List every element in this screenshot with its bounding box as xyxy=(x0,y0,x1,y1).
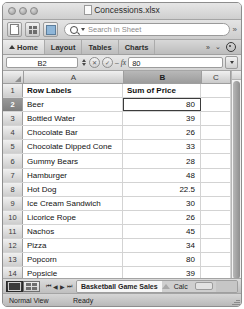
select-all-corner[interactable] xyxy=(3,71,24,83)
cell-c10[interactable] xyxy=(201,211,231,224)
function-icon[interactable]: fx xyxy=(121,58,126,67)
cell-c1[interactable] xyxy=(201,84,231,97)
table-row[interactable]: 6 Gummy Bears 28 xyxy=(3,154,231,168)
cell-b5[interactable]: 33 xyxy=(123,140,201,153)
cell-a9[interactable]: Ice Cream Sandwich xyxy=(23,197,123,210)
row-header[interactable]: 12 xyxy=(3,239,23,252)
search-input[interactable]: Search in Sheet xyxy=(64,23,230,36)
column-header-b[interactable]: B xyxy=(124,71,202,83)
table-row[interactable]: 14 Popsicle 39 xyxy=(3,267,231,278)
cell-c7[interactable] xyxy=(201,169,231,182)
row-header[interactable]: 5 xyxy=(3,140,23,153)
name-box[interactable]: B2 xyxy=(6,57,78,68)
row-header[interactable]: 11 xyxy=(3,225,23,238)
cell-b4[interactable]: 26 xyxy=(123,126,201,139)
first-sheet-icon[interactable]: ⏮ xyxy=(46,283,51,290)
row-header[interactable]: 9 xyxy=(3,197,23,210)
cell-a4[interactable]: Chocolate Bar xyxy=(23,126,123,139)
media-browser-icon[interactable] xyxy=(43,22,58,37)
sheet-grid-icon[interactable] xyxy=(25,22,40,37)
cell-c6[interactable] xyxy=(201,154,231,167)
cell-b8[interactable]: 22.5 xyxy=(123,183,201,196)
search-scope-caret-icon[interactable] xyxy=(81,28,85,31)
table-row[interactable]: 10 Licorice Rope 26 xyxy=(3,211,231,225)
cell-a6[interactable]: Gummy Bears xyxy=(23,154,123,167)
cell-c14[interactable] xyxy=(201,267,231,278)
cell-a1[interactable]: Row Labels xyxy=(23,84,123,97)
table-row[interactable]: 4 Chocolate Bar 26 xyxy=(3,126,231,140)
table-row[interactable]: 11 Nachos 45 xyxy=(3,225,231,239)
vertical-scrollbar-thumb[interactable] xyxy=(233,81,240,278)
cell-b12[interactable]: 34 xyxy=(123,239,201,252)
chevron-down-icon[interactable]: ⌄ xyxy=(215,43,221,51)
sheet-tab-empty-area[interactable] xyxy=(216,281,237,292)
cell-b9[interactable]: 30 xyxy=(123,197,201,210)
row-header[interactable]: 7 xyxy=(3,169,23,182)
row-header[interactable]: 2 xyxy=(3,98,23,111)
prev-sheet-icon[interactable]: ◀ xyxy=(53,283,58,290)
table-row[interactable]: 2 Beer 80 xyxy=(3,98,231,112)
sheet-tab-calc[interactable]: Calc xyxy=(170,281,192,292)
table-row[interactable]: 7 Hamburger 48 xyxy=(3,169,231,183)
name-box-stepper[interactable] xyxy=(80,57,87,68)
next-sheet-icon[interactable]: ▶ xyxy=(60,283,65,290)
cell-b13[interactable]: 80 xyxy=(123,253,201,266)
table-row[interactable]: 3 Bottled Water 39 xyxy=(3,112,231,126)
tab-charts[interactable]: Charts xyxy=(119,40,156,54)
table-row[interactable]: 12 Pizza 34 xyxy=(3,239,231,253)
sheet-tab-grip[interactable] xyxy=(195,282,213,290)
tab-tables[interactable]: Tables xyxy=(82,40,118,54)
column-header-c[interactable]: C xyxy=(202,71,231,83)
normal-view-button[interactable] xyxy=(6,281,23,292)
row-header[interactable]: 14 xyxy=(3,267,23,278)
cell-a14[interactable]: Popsicle xyxy=(23,267,123,278)
row-header[interactable]: 13 xyxy=(3,253,23,266)
scroll-up-arrow-icon[interactable] xyxy=(232,71,241,80)
new-page-icon[interactable] xyxy=(7,22,22,37)
cell-c4[interactable] xyxy=(201,126,231,139)
cell-a8[interactable]: Hot Dog xyxy=(23,183,123,196)
cell-a2[interactable]: Beer xyxy=(23,98,123,111)
table-row[interactable]: 13 Popcorn 80 xyxy=(3,253,231,267)
row-header[interactable]: 8 xyxy=(3,183,23,196)
table-row[interactable]: 8 Hot Dog 22.5 xyxy=(3,183,231,197)
ribbon-overflow-icon[interactable]: » xyxy=(206,44,210,51)
formula-expand-icon[interactable] xyxy=(225,56,238,69)
table-row[interactable]: 5 Chocolate Dipped Cone 33 xyxy=(3,140,231,154)
cell-a10[interactable]: Licorice Rope xyxy=(23,211,123,224)
window-resize-handle[interactable] xyxy=(231,297,240,306)
cell-c9[interactable] xyxy=(201,197,231,210)
cell-c11[interactable] xyxy=(201,225,231,238)
page-layout-view-button[interactable] xyxy=(23,281,40,292)
confirm-icon[interactable]: ✓ xyxy=(102,57,113,68)
cancel-icon[interactable]: ✕ xyxy=(89,57,100,68)
row-header[interactable]: 6 xyxy=(3,154,23,167)
tab-home[interactable]: Home xyxy=(3,40,45,54)
cell-c12[interactable] xyxy=(201,239,231,252)
cell-b3[interactable]: 39 xyxy=(123,112,201,125)
cell-b1[interactable]: Sum of Price xyxy=(123,84,201,97)
cell-a12[interactable]: Pizza xyxy=(23,239,123,252)
row-header[interactable]: 10 xyxy=(3,211,23,224)
toolbar-overflow-icon[interactable]: » xyxy=(233,25,237,34)
formula-input[interactable]: 80 xyxy=(128,57,223,68)
row-header[interactable]: 4 xyxy=(3,126,23,139)
cell-a11[interactable]: Nachos xyxy=(23,225,123,238)
cell-c2[interactable] xyxy=(201,98,231,111)
cell-c8[interactable] xyxy=(201,183,231,196)
cell-b10[interactable]: 26 xyxy=(123,211,201,224)
cell-b14[interactable]: 39 xyxy=(123,267,201,278)
vertical-scrollbar[interactable] xyxy=(231,71,241,278)
row-header[interactable]: 1 xyxy=(3,84,23,97)
sheet-tab-basketball-game-sales[interactable]: Basketball Game Sales xyxy=(77,281,162,292)
last-sheet-icon[interactable]: ⏭ xyxy=(67,283,72,290)
table-row[interactable]: 1 Row Labels Sum of Price xyxy=(3,84,231,98)
gear-icon[interactable] xyxy=(226,42,236,52)
tab-layout[interactable]: Layout xyxy=(45,40,83,54)
table-row[interactable]: 9 Ice Cream Sandwich 30 xyxy=(3,197,231,211)
cell-b7[interactable]: 48 xyxy=(123,169,201,182)
cell-c3[interactable] xyxy=(201,112,231,125)
column-header-a[interactable]: A xyxy=(24,71,124,83)
cell-b2[interactable]: 80 xyxy=(123,98,201,111)
cell-c13[interactable] xyxy=(201,253,231,266)
